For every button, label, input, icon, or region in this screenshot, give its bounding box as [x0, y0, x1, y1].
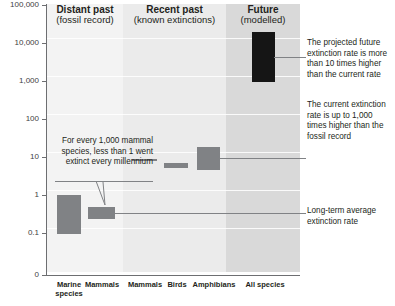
annotation-future-rate-note: The projected future extinction rate is … — [307, 38, 393, 80]
annotation-leader-line — [274, 57, 306, 58]
annotation-leader-line — [114, 213, 306, 214]
annotation-current-rate-note: The current extinction rate is up to 1,0… — [307, 100, 393, 142]
annotation-long-term-average-note: Long-term average extinction rate — [307, 206, 393, 227]
extinction-rate-chart: 100,000 10,000 1,000 100 10 1 0.1 0 Dist… — [0, 0, 395, 306]
annotation-leader-line — [219, 158, 306, 159]
